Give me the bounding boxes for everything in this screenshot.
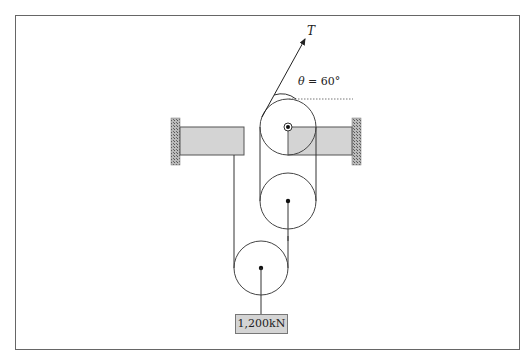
middle-pulley-axle xyxy=(286,199,290,203)
angle-symbol: θ xyxy=(298,75,305,88)
angle-value: = 60° xyxy=(305,75,341,88)
top-pulley-axle-dot xyxy=(286,125,290,129)
weight-box: 1,200kN xyxy=(235,314,288,334)
right-wall xyxy=(352,118,361,165)
angle-label: θ = 60° xyxy=(298,75,340,88)
left-wall xyxy=(171,118,180,165)
angle-arc xyxy=(274,94,296,99)
right-beam xyxy=(288,127,352,155)
left-beam xyxy=(180,127,244,155)
tension-label: T xyxy=(307,24,315,38)
pulley-system-diagram xyxy=(0,0,531,363)
